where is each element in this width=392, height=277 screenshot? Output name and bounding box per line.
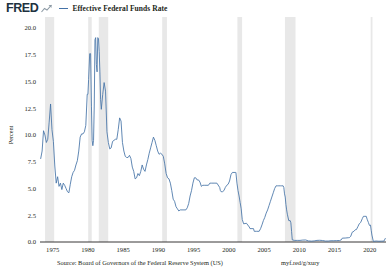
series-line-effective-federal-funds-rate	[41, 38, 386, 242]
y-tick-label: 7.5	[28, 158, 37, 165]
x-tick-label: 1980	[81, 246, 95, 253]
legend-line-swatch	[59, 8, 68, 9]
chart-header: FRED Effective Federal Funds Rate	[0, 0, 392, 17]
chart-footer: Source: Board of Governors of the Federa…	[0, 259, 392, 273]
x-tick-label: 2010	[293, 246, 307, 253]
fred-logo[interactable]: FRED	[6, 2, 38, 15]
plot-area: 0.02.55.07.510.012.515.017.520.0 1975198…	[0, 17, 392, 259]
fred-chart: FRED Effective Federal Funds Rate 0.02.5…	[0, 0, 392, 277]
y-tick-label: 15.0	[24, 78, 36, 85]
x-tick-label: 1990	[152, 246, 166, 253]
x-tick-label: 2005	[257, 246, 271, 253]
y-tick-label: 2.5	[28, 212, 37, 219]
fred-graph-mark-icon	[41, 4, 52, 13]
x-axis-ticks-group: 1975198019851990199520002005201020152020	[46, 246, 377, 253]
y-axis-title: Percent	[7, 125, 14, 144]
legend-label-effective-federal-funds-rate: Effective Federal Funds Rate	[72, 4, 167, 13]
recession-band-1	[88, 17, 92, 242]
x-tick-label: 1975	[46, 246, 60, 253]
source-text: Source: Board of Governors of the Federa…	[57, 259, 223, 266]
y-tick-label: 10.0	[24, 131, 36, 138]
x-tick-label: 2020	[363, 246, 377, 253]
y-tick-label: 0.0	[28, 238, 37, 245]
y-tick-label: 12.5	[24, 105, 36, 112]
recession-band-3	[162, 17, 167, 242]
y-axis-ticks-group: 0.02.55.07.510.012.515.017.520.0	[24, 24, 36, 245]
x-tick-label: 2000	[222, 246, 236, 253]
recession-band-6	[371, 17, 373, 242]
x-tick-label: 2015	[328, 246, 342, 253]
recession-band-0	[45, 17, 54, 242]
y-tick-label: 17.5	[24, 51, 36, 58]
y-tick-label: 20.0	[24, 24, 36, 31]
permalink-text[interactable]: myf.red/g/xury	[281, 259, 320, 266]
x-tick-label: 1995	[187, 246, 201, 253]
x-tick-label: 1985	[117, 246, 131, 253]
y-tick-label: 5.0	[28, 185, 37, 192]
